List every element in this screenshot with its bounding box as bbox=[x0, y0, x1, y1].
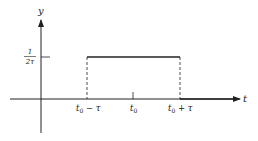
y-tick-numerator: 1 bbox=[28, 48, 32, 56]
x-tick-label-left: t0 − τ bbox=[76, 103, 101, 114]
x-tick-label-mid: t0 bbox=[130, 103, 137, 114]
x-axis-label: t bbox=[243, 93, 248, 104]
y-axis-label: y bbox=[37, 5, 44, 16]
y-tick-denominator: 2τ bbox=[25, 58, 34, 66]
pulse-chart: y t 1 2τ t0 − τ t0 t0 + τ bbox=[0, 0, 258, 141]
x-tick-label-right: t0 + τ bbox=[168, 103, 193, 114]
